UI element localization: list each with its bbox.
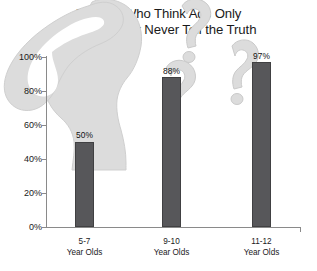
- y-tick-label-0: 0%: [0, 223, 42, 232]
- x-axis-line: [46, 227, 301, 228]
- x-category-label-5-7-year-olds: 5-7 Year Olds: [45, 237, 125, 258]
- y-tick-40: [42, 159, 47, 160]
- y-tick-20: [42, 193, 47, 194]
- bar-label-11-12-year-olds: 97%: [242, 52, 282, 61]
- y-tick-label-40: 40%: [0, 155, 42, 164]
- y-tick-label-80: 80%: [0, 87, 42, 96]
- chart-title-line-1: Percent Who Think Ads Only: [0, 6, 317, 22]
- bar-chart: Percent Who Think Ads Only Sometimes or …: [0, 0, 317, 271]
- chart-title: Percent Who Think Ads Only Sometimes or …: [0, 6, 317, 37]
- x-category-line-2: Year Olds: [132, 248, 212, 259]
- x-category-line-1: 11-12: [222, 237, 302, 248]
- x-category-label-11-12-year-olds: 11-12 Year Olds: [222, 237, 302, 258]
- bar-5-7-year-olds[interactable]: [75, 142, 94, 227]
- y-tick-80: [42, 91, 47, 92]
- bar-label-5-7-year-olds: 50%: [65, 131, 105, 140]
- y-tick-label-20: 20%: [0, 189, 42, 198]
- y-tick-label-100: 100%: [0, 53, 42, 62]
- x-category-line-2: Year Olds: [45, 248, 125, 259]
- x-category-line-2: Year Olds: [222, 248, 302, 259]
- chart-title-line-2: Sometimes or Never Tell the Truth: [0, 22, 317, 38]
- y-axis-labels: 100% 80% 60% 40% 20% 0%: [0, 0, 42, 271]
- y-tick-label-60: 60%: [0, 121, 42, 130]
- bar-9-10-year-olds[interactable]: [162, 77, 181, 227]
- y-tick-60: [42, 125, 47, 126]
- x-axis-end-tick: [300, 227, 301, 232]
- y-axis-line: [46, 56, 47, 228]
- x-category-line-1: 9-10: [132, 237, 212, 248]
- x-category-line-1: 5-7: [45, 237, 125, 248]
- y-tick-100: [42, 57, 47, 58]
- bar-11-12-year-olds[interactable]: [252, 62, 271, 227]
- x-category-label-9-10-year-olds: 9-10 Year Olds: [132, 237, 212, 258]
- bar-label-9-10-year-olds: 88%: [152, 67, 192, 76]
- y-tick-0: [42, 227, 47, 228]
